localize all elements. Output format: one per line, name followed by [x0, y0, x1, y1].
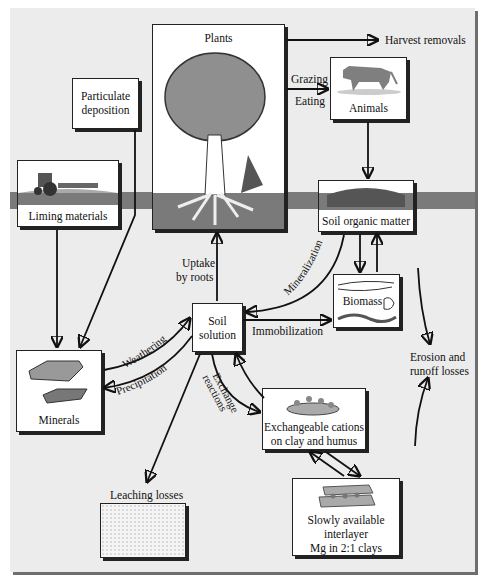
flow-arrows: Weathering Precipitation Mineralization [0, 0, 485, 585]
mineralization-label: Mineralization [281, 238, 324, 298]
slowly-to-cations-arrow [310, 452, 344, 476]
cations-to-slowly-arrow [326, 452, 360, 476]
erosion-arrow-top [418, 268, 430, 344]
cations-to-solution-arrow [236, 354, 264, 398]
particulate-to-minerals-arrow [80, 130, 135, 347]
erosion-arrow-bottom [415, 378, 428, 446]
